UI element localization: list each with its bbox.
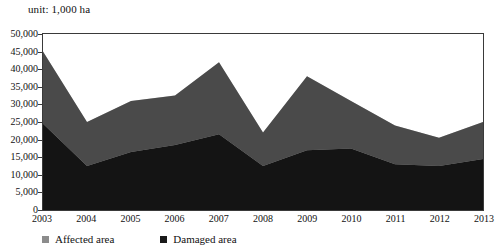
area-series-svg — [43, 34, 483, 210]
legend-item[interactable]: Affected area — [42, 233, 114, 246]
y-tick-label: 45,000 — [0, 47, 38, 57]
legend-swatch-icon — [42, 236, 49, 243]
x-tick-label: 2011 — [374, 213, 418, 225]
x-tick-label: 2004 — [64, 213, 108, 225]
y-tick-label: 35,000 — [0, 82, 38, 92]
x-tick-label: 2009 — [285, 213, 329, 225]
x-tick-label: 2007 — [197, 213, 241, 225]
y-tick-label: 50,000 — [0, 29, 38, 39]
y-tick-label: 10,000 — [0, 170, 38, 180]
mid-band-series — [43, 52, 483, 166]
legend-label: Affected area — [55, 233, 114, 246]
x-axis: 2003200420052006200720082009201020112012… — [42, 213, 484, 227]
legend-label: Damaged area — [173, 233, 236, 246]
y-tick-label: 15,000 — [0, 152, 38, 162]
legend-swatch-icon — [160, 236, 167, 243]
y-tick-label: 20,000 — [0, 135, 38, 145]
x-tick-label: 2005 — [108, 213, 152, 225]
x-tick-label: 2006 — [153, 213, 197, 225]
plot-area — [42, 33, 484, 211]
y-tick-label: 30,000 — [0, 99, 38, 109]
y-axis: 50,00045,00040,00035,00030,00025,00020,0… — [0, 33, 38, 211]
x-tick-label: 2012 — [418, 213, 462, 225]
x-tick-label: 2013 — [462, 213, 500, 225]
x-tick-label: 2008 — [241, 213, 285, 225]
legend-item[interactable]: Damaged area — [160, 233, 236, 246]
y-tick-label: 5,000 — [0, 187, 38, 197]
area-chart-figure: unit: 1,000 ha 50,00045,00040,00035,0003… — [0, 0, 500, 252]
unit-caption: unit: 1,000 ha — [28, 3, 90, 16]
chart-legend: Affected areaDamaged area — [42, 231, 484, 247]
y-tick-label: 25,000 — [0, 117, 38, 127]
x-tick-label: 2010 — [329, 213, 373, 225]
y-tick-label: 40,000 — [0, 64, 38, 74]
x-tick-label: 2003 — [20, 213, 64, 225]
